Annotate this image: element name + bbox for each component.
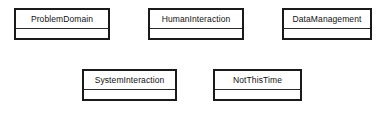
uml-class-attributes-compartment [150,29,242,38]
uml-class-name-compartment: SystemInteraction [84,71,175,90]
uml-class-attributes-compartment [84,90,175,99]
uml-class-name-compartment: DataManagement [284,10,370,29]
uml-class-name-label: NotThisTime [233,76,282,85]
uml-class-name-label: DataManagement [293,15,362,24]
uml-class-diagram-canvas: ProblemDomainHumanInteractionDataManagem… [0,0,385,113]
uml-class-box[interactable]: NotThisTime [213,69,302,101]
uml-class-attributes-compartment [16,29,108,38]
uml-class-name-label: ProblemDomain [31,15,93,24]
uml-class-name-compartment: HumanInteraction [150,10,242,29]
uml-class-name-compartment: ProblemDomain [16,10,108,29]
uml-class-box[interactable]: SystemInteraction [82,69,177,101]
uml-class-attributes-compartment [284,29,370,38]
uml-class-name-label: HumanInteraction [162,15,231,24]
uml-class-box[interactable]: ProblemDomain [14,8,110,40]
uml-class-box[interactable]: DataManagement [282,8,372,40]
uml-class-box[interactable]: HumanInteraction [148,8,244,40]
uml-class-attributes-compartment [215,90,300,99]
uml-class-name-label: SystemInteraction [95,76,165,85]
uml-class-name-compartment: NotThisTime [215,71,300,90]
